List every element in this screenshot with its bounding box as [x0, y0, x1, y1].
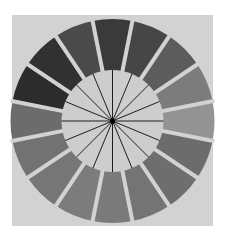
center-hub [110, 119, 115, 124]
color-wheel [0, 0, 228, 236]
color-wheel-figure [0, 0, 228, 236]
